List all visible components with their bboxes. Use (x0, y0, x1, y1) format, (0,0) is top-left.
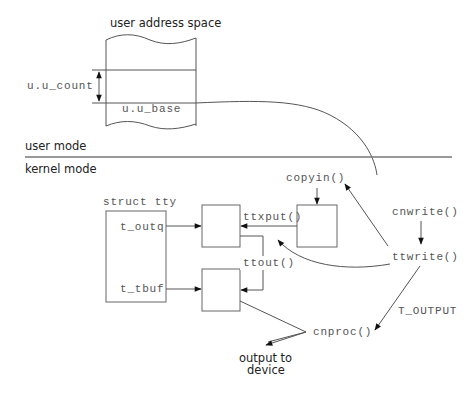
ttwrite-label: ttwrite() (392, 251, 459, 263)
user-data-buffer-box (297, 205, 337, 247)
ttout-label: ttout() (243, 257, 295, 269)
t-outq-field: t_outq (120, 221, 164, 233)
cnwrite-label: cnwrite() (392, 206, 459, 218)
ttwrite-to-copyin-arrow (345, 184, 388, 246)
cnproc-label: cnproc() (313, 326, 372, 338)
u-count-label: u.u_count (27, 80, 94, 92)
output-to-device-line2: device (247, 363, 285, 377)
u-base-to-copyin-curve (196, 101, 377, 175)
struct-tty-title: struct tty (103, 196, 177, 208)
ttxput-label: ttxput() (243, 211, 302, 223)
t-output-label: T_OUTPUT (398, 305, 457, 317)
ttwrite-to-cnproc-arrow (375, 266, 420, 330)
user-mode-label: user mode (25, 139, 86, 153)
cnproc-to-device-arrow (266, 332, 306, 345)
tbuf-to-cnproc-line (240, 301, 306, 342)
kernel-mode-label: kernel mode (25, 162, 97, 176)
t-tbuf-field: t_tbuf (120, 283, 164, 295)
u-base-label: u.u_base (122, 103, 181, 115)
user-address-space-title: user address space (110, 16, 221, 30)
copyin-label: copyin() (286, 172, 345, 184)
outq-clist-box (202, 205, 240, 247)
tbuf-box (202, 269, 240, 311)
tty-write-diagram: user address space u.u_count u.u_base us… (0, 0, 476, 395)
